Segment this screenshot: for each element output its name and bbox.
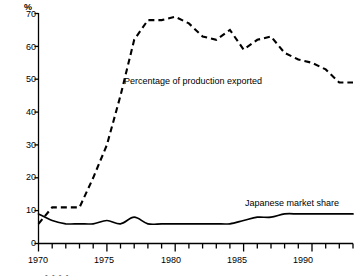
chart-figure: % 70 60 50 40 30 20 10 0 1970 1975 1980 … [0,0,357,278]
series-line-market-share [39,214,354,225]
cropped-edge-text: - - - - [45,270,69,277]
axis-lines [38,13,353,244]
series-line-exported [39,17,354,224]
x-axis-ticks [39,244,354,252]
plot-area [0,0,357,278]
